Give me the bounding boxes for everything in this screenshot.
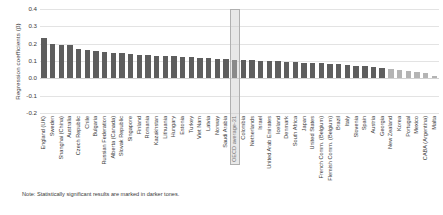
y-tick-label: -0.2: [14, 110, 37, 116]
x-label-slot: Austria: [370, 114, 379, 188]
x-label-slot: Chile: [83, 114, 92, 188]
x-label-slot: Czech Republic: [75, 114, 84, 188]
bar-slot: [404, 9, 413, 113]
x-label-slot: Spain: [361, 114, 370, 188]
bar-slot: [413, 9, 422, 113]
bar: [137, 55, 142, 79]
x-axis-label: Shanghai (China): [59, 116, 65, 160]
bar-slot: [196, 9, 205, 113]
bar: [50, 44, 55, 78]
x-label-slot: CABA (Argentina): [422, 114, 431, 188]
bar-slot: [153, 9, 162, 113]
x-label-slot: Norway: [213, 114, 222, 188]
regression-coefficients-bar-chart: Regression coefficients (β) 0.40.30.20.1…: [0, 0, 443, 215]
bar: [406, 71, 411, 78]
x-label-slot: Iceland: [274, 114, 283, 188]
x-label-slot: Denmark: [283, 114, 292, 188]
x-axis-label: Slovenia: [354, 116, 360, 137]
bar-slot: [170, 9, 179, 113]
bar: [119, 53, 124, 78]
x-label-slot: Slovenia: [352, 114, 361, 188]
bar: [197, 58, 202, 78]
x-label-slot: Mexico: [413, 114, 422, 188]
x-label-slot: Slovak Republic: [118, 114, 127, 188]
x-axis-label: Netherlands: [250, 116, 256, 146]
bar: [432, 76, 437, 78]
x-axis-label: Singapore: [128, 116, 134, 142]
x-label-slot: Romania: [144, 114, 153, 188]
bar: [102, 52, 107, 78]
bar-slot: [266, 9, 275, 113]
bar-slot: [274, 9, 283, 113]
bar-slot: [75, 9, 84, 113]
x-axis-label: Turkey: [189, 116, 195, 133]
x-axis-label: Finland: [137, 116, 143, 134]
bar-slot: [326, 9, 335, 113]
bar: [223, 59, 228, 78]
bar-slot: [300, 9, 309, 113]
bar: [414, 72, 419, 78]
bar: [154, 56, 159, 79]
x-axis-label: Saudi Arabia: [224, 116, 230, 148]
x-axis-label: Australia: [68, 116, 74, 138]
x-axis-label: England (UK): [42, 116, 48, 150]
x-label-slot: Japan: [300, 114, 309, 188]
x-label-slot: Israel: [257, 114, 266, 188]
bar-slot: [248, 9, 257, 113]
bar: [379, 68, 384, 79]
bar: [67, 45, 72, 78]
bar: [85, 50, 90, 78]
bar-slot: [292, 9, 301, 113]
x-label-slot: Bulgaria: [92, 114, 101, 188]
x-axis-label: Slovak Republic: [120, 116, 126, 156]
x-label-slot: Russian Federation: [101, 114, 110, 188]
oecd-average-highlight-box: [230, 9, 240, 165]
x-label-slot: Portugal: [404, 114, 413, 188]
x-label-slot: Lithuania: [161, 114, 170, 188]
bar: [310, 63, 315, 78]
bar: [353, 66, 358, 79]
x-axis-label: Iceland: [276, 116, 282, 134]
bar-slot: [57, 9, 66, 113]
x-label-slot: Hungary: [170, 114, 179, 188]
x-axis-label: Colombia: [241, 116, 247, 140]
bar-slot: [135, 9, 144, 113]
x-axis-label: United Arab Emirates: [267, 116, 273, 169]
x-axis-label: French Comm. (Belgium): [319, 116, 325, 178]
bar: [206, 58, 211, 78]
bar-slot: [127, 9, 136, 113]
bar: [275, 61, 280, 78]
x-axis-label: CABA (Argentina): [423, 116, 429, 160]
x-label-slot: Brazil: [335, 114, 344, 188]
bar-slot: [213, 9, 222, 113]
x-label-slot: South Africa: [292, 114, 301, 188]
x-axis-label: Korea: [397, 116, 403, 131]
x-axis-label: Alberta (Canada): [111, 116, 117, 159]
x-label-slot: French Comm. (Belgium): [318, 114, 327, 188]
x-axis-label: Brazil: [336, 116, 342, 130]
x-axis-label: Japan: [302, 116, 308, 131]
x-axis-label: Czech Republic: [76, 116, 82, 155]
x-label-slot: Italy: [344, 114, 353, 188]
y-tick-label: -0.1: [14, 93, 37, 99]
bar: [284, 62, 289, 79]
x-label-slot: Estonia: [179, 114, 188, 188]
x-label-slot: Malta: [430, 114, 439, 188]
x-label-slot: Alberta (Canada): [109, 114, 118, 188]
bar-slot: [179, 9, 188, 113]
x-axis-label: Bulgaria: [94, 116, 100, 137]
bar-slot: [144, 9, 153, 113]
bar: [371, 67, 376, 78]
x-axis-label: Latvia: [206, 116, 212, 131]
bar-slot: [387, 9, 396, 113]
bar-slot: [361, 9, 370, 113]
x-axis-label: Hungary: [172, 116, 178, 137]
bar: [241, 60, 246, 78]
bar-slot: [187, 9, 196, 113]
bar: [128, 54, 133, 78]
bar: [388, 69, 393, 79]
x-axis-label: South Africa: [293, 116, 299, 146]
bar-slot: [335, 9, 344, 113]
bar-slot: [40, 9, 49, 113]
x-label-slot: Shanghai (China): [57, 114, 66, 188]
